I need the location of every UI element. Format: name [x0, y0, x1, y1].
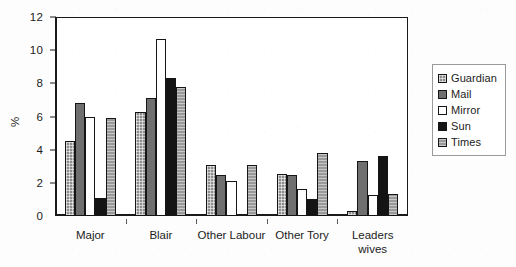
bar-mirror-major — [85, 117, 95, 217]
bar-sun-blair — [166, 78, 176, 216]
y-axis-title: % — [9, 117, 21, 127]
bar-mail-major — [75, 103, 85, 216]
bar-mail-leaders-wives — [357, 161, 367, 216]
bar-group — [126, 17, 197, 216]
bar-times-other-labour — [247, 165, 257, 216]
legend-swatch-icon — [438, 90, 447, 99]
bar-times-leaders-wives — [388, 194, 398, 216]
bar-times-major — [106, 118, 116, 216]
bar-guardian-leaders-wives — [347, 211, 357, 216]
x-tick-label-line: Leaders — [352, 228, 394, 242]
x-tick-mark — [267, 219, 268, 224]
legend-swatch-icon — [438, 106, 447, 115]
bar-sun-leaders-wives — [378, 156, 388, 216]
legend-swatch-icon — [438, 74, 447, 83]
x-tick-mark — [337, 219, 338, 224]
y-tick-label: 0 — [36, 210, 43, 222]
y-tick-label: 10 — [30, 44, 43, 56]
y-tick-label: 8 — [36, 77, 43, 89]
x-tick-label-line: Blair — [149, 228, 172, 242]
bar-group — [337, 17, 408, 216]
legend-label: Mirror — [451, 104, 480, 116]
x-tick-label-line: wives — [352, 242, 394, 256]
bar-mail-other-tory — [287, 175, 297, 216]
y-tick-label: 6 — [36, 111, 43, 123]
x-tick-label: Other Labour — [198, 228, 266, 242]
legend-swatch-icon — [438, 122, 447, 131]
y-axis: 024681012 — [0, 0, 55, 267]
bar-times-other-tory — [317, 153, 327, 216]
x-tick-label-line: Major — [76, 228, 105, 242]
x-tick-label: Major — [76, 228, 105, 242]
y-tick-label: 4 — [36, 144, 43, 156]
x-axis: MajorBlairOther LabourOther ToryLeadersw… — [55, 219, 408, 265]
x-tick-label: Other Tory — [275, 228, 328, 242]
bar-guardian-other-labour — [206, 165, 216, 216]
bar-guardian-other-tory — [277, 174, 287, 216]
legend: GuardianMailMirrorSunTimes — [432, 64, 506, 156]
y-tick-label: 2 — [36, 177, 43, 189]
legend-item-guardian[interactable]: Guardian — [438, 70, 501, 86]
legend-item-mirror[interactable]: Mirror — [438, 102, 501, 118]
legend-label: Guardian — [451, 72, 497, 84]
legend-item-mail[interactable]: Mail — [438, 86, 501, 102]
legend-swatch-icon — [438, 138, 447, 147]
bar-guardian-major — [65, 141, 75, 216]
bar-sun-major — [95, 198, 105, 216]
bar-group — [267, 17, 338, 216]
bar-group — [196, 17, 267, 216]
x-tick-label-line: Other Tory — [275, 228, 328, 242]
legend-item-sun[interactable]: Sun — [438, 118, 501, 134]
legend-item-times[interactable]: Times — [438, 134, 501, 150]
bars-layer — [55, 17, 408, 216]
legend-label: Sun — [451, 120, 471, 132]
y-tick-label: 12 — [30, 11, 43, 23]
bar-guardian-blair — [135, 112, 145, 216]
bar-mirror-blair — [156, 39, 166, 216]
bar-chart: 024681012 % MajorBlairOther LabourOther … — [0, 0, 516, 267]
bar-group — [55, 17, 126, 216]
legend-label: Mail — [451, 88, 472, 100]
bar-mail-other-labour — [216, 175, 226, 216]
bar-mirror-leaders-wives — [368, 195, 378, 216]
x-tick-label: Blair — [149, 228, 172, 242]
x-tick-mark — [196, 219, 197, 224]
bar-mail-blair — [146, 98, 156, 216]
bar-times-blair — [176, 87, 186, 216]
bar-mirror-other-labour — [226, 181, 236, 216]
x-tick-label-line: Other Labour — [198, 228, 266, 242]
legend-label: Times — [451, 136, 481, 148]
x-tick-mark — [126, 219, 127, 224]
bar-sun-other-tory — [307, 199, 317, 216]
bar-mirror-other-tory — [297, 189, 307, 216]
x-tick-label: Leaderswives — [352, 228, 394, 256]
